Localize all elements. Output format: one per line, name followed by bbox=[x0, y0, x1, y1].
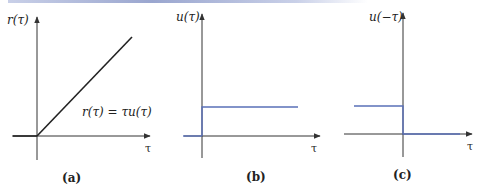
ramp-line bbox=[37, 37, 132, 136]
reflected-step-line bbox=[354, 106, 460, 134]
x-axis-label: τ bbox=[467, 140, 473, 153]
panel-a: r(τ) r(τ) = τu(τ) τ (a) bbox=[7, 13, 152, 185]
y-axis-label: u(τ) bbox=[176, 10, 200, 24]
signal-figure: r(τ) r(τ) = τu(τ) τ (a) u(τ) τ (b) u(−τ)… bbox=[0, 0, 485, 195]
step-line bbox=[202, 107, 298, 136]
panel-caption: (c) bbox=[393, 168, 412, 182]
equation-label: r(τ) = τu(τ) bbox=[82, 105, 152, 119]
panel-caption: (a) bbox=[62, 171, 81, 185]
panel-c: u(−τ) τ (c) bbox=[344, 10, 473, 182]
y-axis-label: r(τ) bbox=[7, 13, 29, 27]
panel-caption: (b) bbox=[246, 170, 266, 184]
x-axis-label: τ bbox=[311, 142, 317, 155]
panel-b: u(τ) τ (b) bbox=[176, 10, 320, 184]
x-axis-label: τ bbox=[145, 142, 151, 155]
y-axis-label: u(−τ) bbox=[369, 10, 403, 24]
